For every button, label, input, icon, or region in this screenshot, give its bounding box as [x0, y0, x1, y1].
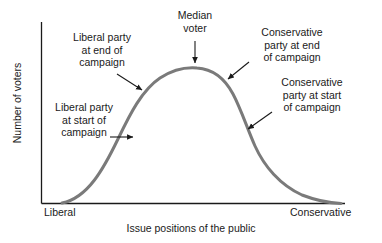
annotation-line: Median: [157, 9, 233, 22]
annotation-conservative-party-start: Conservative party at start of campaign: [259, 76, 365, 114]
x-tick-label-conservative: Conservative: [290, 206, 351, 219]
y-axis-label-wrapper: Number of voters: [7, 43, 25, 163]
annotation-liberal-party-end: Liberal party at end of campaign: [56, 31, 148, 69]
voter-distribution-figure: Liberal party at end of campaign Liberal…: [0, 0, 382, 243]
annotation-line: voter: [157, 22, 233, 35]
annotation-line: at end of: [56, 44, 148, 57]
annotation-conservative-party-end: Conservative party at end of campaign: [240, 26, 344, 64]
y-axis-label: Number of voters: [11, 63, 23, 144]
x-axis-label: Issue positions of the public: [0, 222, 382, 234]
annotation-line: campaign: [56, 56, 148, 69]
annotation-line: Liberal party: [56, 31, 148, 44]
annotation-liberal-party-start: Liberal party at start of campaign: [41, 101, 127, 139]
annotation-line: at start of: [41, 114, 127, 127]
annotation-line: of campaign: [240, 51, 344, 64]
arrow-conservative-party-start: [248, 112, 272, 129]
annotation-median-voter: Median voter: [157, 9, 233, 34]
arrow-conservative-party-end: [228, 62, 249, 79]
annotation-line: party at start: [259, 89, 365, 102]
annotation-line: Conservative: [240, 26, 344, 39]
annotation-line: campaign: [41, 126, 127, 139]
arrow-liberal-party-end: [117, 74, 142, 90]
annotation-line: Liberal party: [41, 101, 127, 114]
annotation-line: of campaign: [259, 101, 365, 114]
annotation-line: party at end: [240, 39, 344, 52]
x-tick-label-liberal: Liberal: [44, 206, 76, 219]
annotation-line: Conservative: [259, 76, 365, 89]
